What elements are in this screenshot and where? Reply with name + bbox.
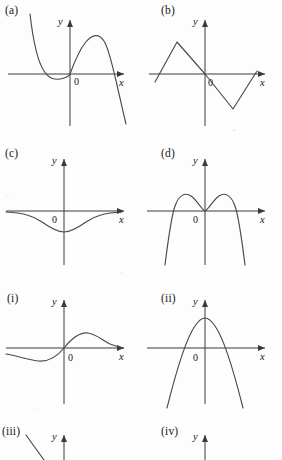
panel-d-y-axis-label: y	[192, 155, 198, 166]
panel-iv: (iv) y	[141, 424, 282, 460]
panel-c-y-axis-arrow	[61, 159, 67, 166]
panel-c-plot: y x 0	[0, 143, 141, 268]
panel-c-x-axis-label: x	[118, 214, 124, 225]
panel-c-y-axis-label: y	[51, 155, 57, 166]
panel-d-x-axis-label: x	[259, 214, 265, 225]
panel-b-x-axis-label: x	[259, 77, 265, 88]
panel-a: (a) y x 0	[0, 0, 141, 130]
scan-speckle	[120, 272, 122, 273]
panel-a-origin-label: 0	[74, 76, 79, 87]
panel-i-origin-label: 0	[68, 352, 73, 363]
panel-a-plot: y x 0	[0, 0, 141, 130]
panel-iv-y-axis-label: y	[192, 431, 198, 442]
panel-b-curve	[155, 42, 257, 109]
panel-d-plot: y x 0	[141, 143, 282, 268]
panel-iii: (iii) y	[0, 424, 141, 460]
panel-i: (i) y x 0	[0, 288, 141, 413]
panel-d-origin-label: 0	[193, 214, 198, 225]
panel-i-y-axis-arrow	[61, 300, 67, 307]
panel-ii-y-axis-arrow	[202, 300, 208, 307]
panel-i-y-axis-label: y	[51, 296, 57, 307]
panel-iii-y-axis-arrow	[61, 435, 67, 442]
panel-ii-x-axis-label: x	[259, 351, 265, 362]
panel-ii: (ii) y x 0	[141, 288, 282, 413]
panel-c-origin-label: 0	[52, 214, 57, 225]
panel-b: (b) y x 0	[141, 0, 282, 130]
panel-a-curve	[30, 14, 126, 124]
panel-c: (c) y x 0	[0, 143, 141, 268]
panel-a-y-axis-label: y	[57, 16, 63, 27]
panel-b-y-axis-label: y	[192, 16, 198, 27]
panel-i-x-axis-label: x	[118, 351, 124, 362]
panel-b-y-axis-arrow	[202, 20, 208, 27]
panel-d-y-axis-arrow	[202, 159, 208, 166]
panel-ii-y-axis-label: y	[192, 296, 198, 307]
panel-iv-y-axis-arrow	[202, 435, 208, 442]
panel-iii-curve-fragment	[26, 435, 44, 460]
panel-iv-plot: y	[141, 424, 282, 460]
panel-a-y-axis-arrow	[67, 20, 73, 27]
figure-sheet: (a) y x 0 (b) y x 0	[0, 0, 282, 460]
panel-iii-y-axis-label: y	[51, 431, 57, 442]
panel-ii-plot: y x 0	[141, 288, 282, 413]
panel-iii-plot: y	[0, 424, 141, 460]
panel-d: (d) y x 0	[141, 143, 282, 268]
panel-a-x-axis-label: x	[118, 77, 124, 88]
panel-i-plot: y x 0	[0, 288, 141, 413]
panel-ii-origin-label: 0	[193, 352, 198, 363]
panel-b-plot: y x 0	[141, 0, 282, 130]
